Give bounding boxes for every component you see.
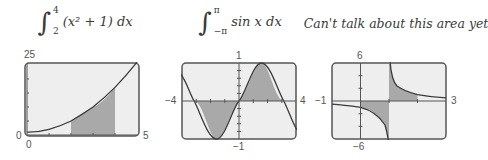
y-max-label: 25 (24, 50, 35, 60)
integral-sign: ∫ (37, 9, 51, 35)
graph-sine (181, 62, 297, 140)
integrand: sin x dx (231, 14, 281, 29)
panel2-title: ∫ π −π sin x dx (195, 4, 285, 38)
upper-limit: 4 (53, 6, 59, 15)
y-min-label: −6 (353, 142, 364, 152)
graph-reciprocal (331, 62, 447, 140)
lower-limit: −π (214, 27, 227, 36)
y-min-label: 0 (16, 131, 22, 141)
x-min-label: −4 (165, 96, 176, 106)
integral-sign: ∫ (198, 9, 212, 35)
panel1-title: ∫ 4 2 (x² + 1) dx (30, 4, 140, 38)
y-max-label: 1 (236, 51, 242, 61)
x-origin-label: 0 (26, 140, 32, 150)
y-max-label: 6 (357, 51, 363, 61)
upper-limit: π (214, 6, 227, 15)
y-min-label: −1 (233, 142, 244, 152)
x-max-label: 5 (143, 131, 149, 141)
x-max-label: 3 (451, 96, 457, 106)
integrand: (x² + 1) dx (63, 14, 133, 29)
caption: Can't talk about this area yet (304, 16, 488, 31)
lower-limit: 2 (53, 27, 59, 36)
x-min-label: −1 (315, 96, 326, 106)
x-max-label: 4 (300, 96, 306, 106)
panel3-title: Can't talk about this area yet (320, 6, 472, 40)
graph-x-squared-plus-one (24, 62, 140, 137)
